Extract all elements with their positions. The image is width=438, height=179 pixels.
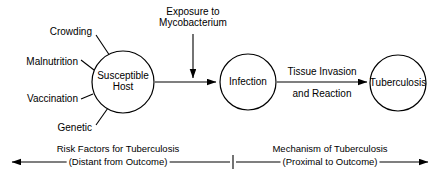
- edge-label-tissue-invasion-line1: Tissue Invasion: [287, 67, 356, 78]
- edge-label-exposure: Exposure to Mycobacterium: [159, 7, 227, 29]
- node-label-infection: Infection: [229, 77, 267, 88]
- edge-label-tissue-invasion-line2: and Reaction: [293, 89, 352, 100]
- edge-label-exposure-line2: Mycobacterium: [159, 17, 227, 28]
- node-label-susceptible-host: Susceptible Host: [97, 71, 149, 93]
- node-label-line1: Susceptible: [97, 70, 149, 81]
- risk-factor-label-crowding: Crowding: [50, 27, 92, 38]
- node-label-line2: Host: [113, 81, 134, 92]
- caption-risk-factors-line2: (Distant from Outcome): [67, 157, 170, 167]
- tuberculosis-causal-pathway-diagram: Susceptible Host Infection Tuberculosis …: [0, 0, 438, 179]
- risk-factor-label-genetic: Genetic: [58, 123, 92, 134]
- caption-risk-factors-line1: Risk Factors for Tuberculosis: [55, 144, 181, 154]
- edge-label-exposure-line1: Exposure to: [166, 6, 219, 17]
- caption-mechanism-line1: Mechanism of Tuberculosis: [270, 144, 389, 154]
- risk-factor-label-malnutrition: Malnutrition: [26, 57, 78, 68]
- risk-factor-label-vaccination: Vaccination: [27, 94, 78, 105]
- caption-mechanism-line2: (Proximal to Outcome): [280, 157, 379, 167]
- node-label-tuberculosis: Tuberculosis: [370, 78, 426, 89]
